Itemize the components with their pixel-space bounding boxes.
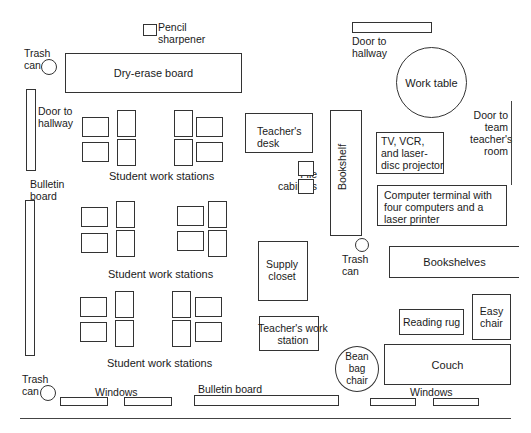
bookshelves: Bookshelves	[389, 246, 519, 278]
work-table: Work table	[396, 47, 467, 118]
window	[370, 398, 416, 406]
bookshelf-label: Bookshelf	[336, 144, 348, 190]
supply-closet-label: Supply closet	[266, 258, 298, 282]
easy-chair-label: Easy chair	[480, 305, 503, 329]
desk	[172, 291, 191, 318]
reading-rug-label: Reading rug	[403, 316, 460, 328]
bean-bag-chair: Bean bag chair	[335, 346, 379, 392]
desk	[208, 201, 227, 228]
desk	[177, 206, 204, 226]
door-to-team-room	[511, 101, 512, 185]
door-to-hallway-left-label: Door to hallway	[38, 105, 73, 129]
work-table-label: Work table	[405, 77, 457, 89]
tv-vcr-projector: TV, VCR, and laser- disc projector	[376, 132, 444, 174]
desk	[195, 322, 222, 342]
trash-can-middle-label: Trash can	[342, 253, 368, 277]
desk	[115, 320, 134, 347]
tv-vcr-projector-label: TV, VCR, and laser- disc projector	[381, 135, 443, 171]
dry-erase-board-label: Dry-erase board	[114, 67, 193, 79]
teachers-work-station: Teacher's work station	[259, 316, 319, 351]
file-cabinet	[298, 161, 314, 176]
computer-terminal: Computer terminal with four computers an…	[377, 185, 507, 226]
desk	[172, 320, 191, 347]
dry-erase-board: Dry-erase board	[65, 53, 242, 93]
bookshelves-label: Bookshelves	[423, 256, 485, 268]
couch-label: Couch	[432, 359, 464, 371]
bookshelf: Bookshelf	[330, 110, 362, 236]
bottom-wall	[20, 418, 511, 419]
desk	[82, 117, 109, 137]
bulletin-board-left-label: Bulletin board	[30, 178, 64, 202]
desk	[117, 139, 136, 166]
window	[124, 397, 172, 406]
desk	[195, 297, 222, 317]
desk	[117, 110, 136, 137]
computer-terminal-label: Computer terminal with four computers an…	[384, 189, 492, 225]
teachers-work-station-label: Teacher's work station	[258, 322, 328, 346]
teachers-desk-label: Teacher's desk	[257, 125, 302, 149]
supply-closet: Supply closet	[258, 241, 308, 301]
desk	[82, 142, 109, 162]
student-work-stations-label: Student work stations	[108, 268, 213, 280]
desk	[116, 201, 135, 228]
student-work-stations-label: Student work stations	[109, 170, 214, 182]
desk	[196, 142, 223, 162]
desk	[208, 230, 227, 257]
teachers-desk: Teacher's desk	[245, 113, 313, 153]
pencil-sharpener-label: Pencil sharpener	[158, 21, 205, 45]
desk	[80, 297, 107, 317]
trash-can	[40, 385, 56, 401]
student-work-stations-label: Student work stations	[107, 357, 212, 369]
desk	[174, 139, 193, 166]
reading-rug: Reading rug	[399, 309, 464, 335]
bulletin-board-bottom-label: Bulletin board	[198, 383, 262, 395]
trash-can	[41, 59, 57, 75]
desk	[81, 207, 108, 227]
window	[433, 398, 479, 406]
door-to-hallway-left	[26, 89, 36, 171]
file-cabinet	[298, 179, 314, 194]
door-to-hallway-top-label: Door to hallway	[352, 35, 387, 59]
pencil-sharpener	[143, 24, 157, 36]
bean-bag-chair-label: Bean bag chair	[345, 351, 368, 387]
door-to-team-room-label: Door to team teacher's room	[470, 109, 508, 157]
windows-right-label: Windows	[410, 386, 453, 398]
desk	[81, 233, 108, 253]
easy-chair: Easy chair	[472, 294, 511, 340]
door-to-hallway-top	[352, 22, 432, 33]
bulletin-board-bottom	[194, 395, 339, 406]
desk	[196, 117, 223, 137]
couch: Couch	[384, 344, 511, 385]
bulletin-board-left	[25, 200, 35, 356]
desk	[115, 291, 134, 318]
desk	[174, 110, 193, 137]
window	[60, 397, 108, 406]
desk	[116, 230, 135, 257]
trash-can	[355, 238, 369, 252]
desk	[80, 322, 107, 342]
desk	[177, 231, 204, 251]
